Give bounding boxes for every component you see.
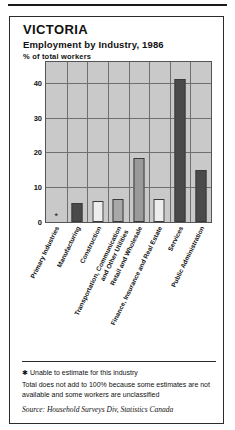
no-estimate-asterisk: * — [55, 212, 59, 221]
bar-cell — [129, 62, 150, 222]
source-line: Source: Household Surveys Div, Statistic… — [22, 405, 216, 415]
y-tick-label-30: 30 — [34, 113, 42, 122]
footnotes: ✱ Unable to estimate for this industry T… — [22, 361, 216, 415]
footnote-divider — [22, 361, 216, 362]
bar-services — [175, 79, 186, 222]
y-tick-label-40: 40 — [34, 78, 42, 87]
x-tick-label: Primary Industries — [29, 225, 61, 280]
footnote-asterisk: ✱ Unable to estimate for this industry — [22, 368, 216, 378]
bar-public-administration — [195, 170, 206, 222]
x-axis-labels: Primary IndustriesManufacturingConstruct… — [45, 225, 215, 355]
bar-cell — [170, 62, 191, 222]
bar-cell — [87, 62, 108, 222]
bar-series: * — [46, 62, 211, 222]
y-tick-label-20: 20 — [34, 148, 42, 157]
top-divider — [8, 4, 227, 6]
y-tick-label-0: 0 — [38, 218, 42, 227]
footnote-total: Total does not add to 100% because some … — [22, 380, 216, 399]
x-tick-label: Manufacturing — [55, 225, 81, 269]
bar-construction — [92, 201, 103, 222]
bar-cell — [149, 62, 170, 222]
plot-frame: * — [45, 61, 212, 223]
y-tick-label-10: 10 — [34, 183, 42, 192]
chart-plot-area: 010203040 * — [36, 61, 212, 227]
chart-subtitle: Employment by Industry, 1986 — [23, 39, 213, 51]
bar-transportation-communication-and-other-utilities — [113, 199, 124, 222]
bar-retail-and-wholesale — [133, 158, 144, 222]
bar-cell: * — [46, 62, 67, 222]
bar-manufacturing — [71, 203, 82, 222]
bar-finance-insurance-and-real-estate — [154, 199, 165, 222]
chart-card: VICTORIA Employment by Industry, 1986 % … — [9, 16, 224, 424]
page-title: VICTORIA — [23, 23, 213, 37]
bar-cell — [67, 62, 88, 222]
x-tick-label: Services — [166, 225, 185, 252]
bar-cell — [108, 62, 129, 222]
chart-header: VICTORIA Employment by Industry, 1986 % … — [23, 23, 213, 62]
bar-cell — [190, 62, 211, 222]
